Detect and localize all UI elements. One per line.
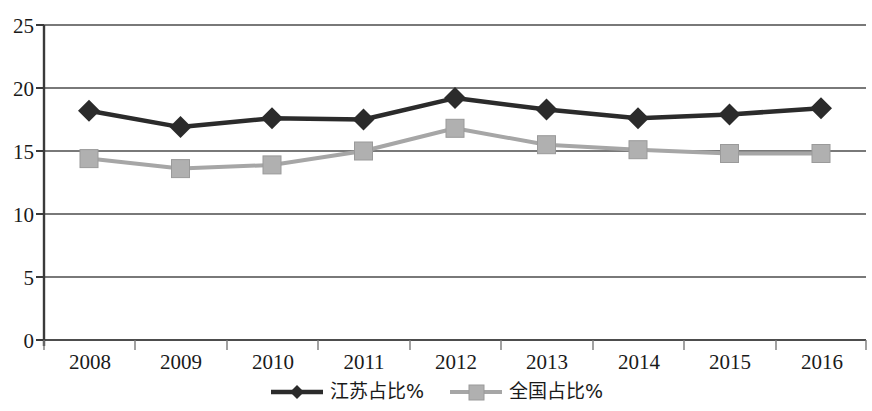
x-axis-tick-label: 2015 xyxy=(685,352,775,373)
x-axis-tick-label: 2010 xyxy=(228,352,318,373)
line-chart: 25 20 15 10 5 0 xyxy=(0,0,872,411)
x-axis-tick-label: 2014 xyxy=(594,352,684,373)
x-axis-tick-label: 2013 xyxy=(502,352,592,373)
legend-label-jiangsu: 江苏占比% xyxy=(330,382,424,401)
legend-item-national: 全国占比% xyxy=(448,382,603,401)
x-axis-tick-label: 2009 xyxy=(136,352,226,373)
x-axis-ticks xyxy=(44,340,866,350)
gridlines xyxy=(44,25,866,277)
x-axis-tick-label: 2011 xyxy=(319,352,409,373)
legend-label-national: 全国占比% xyxy=(509,382,603,401)
x-axis-tick-label: 2012 xyxy=(411,352,501,373)
x-axis-tick-label: 2016 xyxy=(777,352,867,373)
legend-marker-diamond-icon xyxy=(269,383,325,401)
x-axis-tick-label: 2008 xyxy=(45,352,135,373)
legend-marker-square-icon xyxy=(448,383,504,401)
legend-item-jiangsu: 江苏占比% xyxy=(269,382,424,401)
chart-legend: 江苏占比% 全国占比% xyxy=(0,382,872,401)
